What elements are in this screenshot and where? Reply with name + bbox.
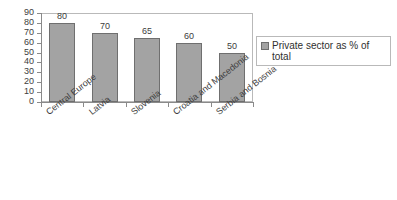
x-axis-tick bbox=[211, 103, 212, 107]
x-axis-tick bbox=[253, 103, 254, 107]
bar-value-label: 50 bbox=[212, 42, 252, 51]
bar-value-label: 60 bbox=[169, 32, 209, 41]
legend-item-label: Private sector as % of total bbox=[272, 40, 387, 62]
y-axis-tick bbox=[37, 72, 41, 73]
y-axis-tick bbox=[37, 43, 41, 44]
y-axis-tick-label: 80 bbox=[24, 18, 34, 27]
x-axis-tick bbox=[41, 103, 42, 107]
y-axis-tick-label: 60 bbox=[24, 38, 34, 47]
y-axis-tick bbox=[37, 92, 41, 93]
y-axis-tick-label: 90 bbox=[24, 8, 34, 17]
x-axis-tick bbox=[168, 103, 169, 107]
y-axis-tick-label: 20 bbox=[24, 77, 34, 86]
y-axis-line bbox=[41, 13, 42, 103]
y-axis-tick-label: 30 bbox=[24, 67, 34, 76]
y-axis-tick-label: 40 bbox=[24, 57, 34, 66]
y-axis-tick bbox=[37, 33, 41, 34]
legend: Private sector as % of total bbox=[256, 36, 391, 66]
bar-value-label: 80 bbox=[42, 12, 82, 21]
legend-swatch-icon bbox=[261, 42, 269, 50]
bar-chart: 0102030405060708090 8070656050 Central E… bbox=[0, 0, 397, 200]
y-axis-tick bbox=[37, 23, 41, 24]
bar-value-label: 70 bbox=[85, 22, 125, 31]
y-axis-tick bbox=[37, 13, 41, 14]
bar bbox=[92, 33, 118, 102]
x-axis-tick bbox=[83, 103, 84, 107]
x-axis-tick bbox=[126, 103, 127, 107]
y-axis-tick-label: 70 bbox=[24, 28, 34, 37]
y-axis-tick bbox=[37, 82, 41, 83]
y-axis-tick-label: 50 bbox=[24, 48, 34, 57]
bar-value-label: 65 bbox=[127, 27, 167, 36]
y-axis-tick bbox=[37, 62, 41, 63]
y-axis-tick-label: 10 bbox=[24, 87, 34, 96]
y-axis-tick bbox=[37, 53, 41, 54]
y-axis-tick-label: 0 bbox=[29, 97, 34, 106]
